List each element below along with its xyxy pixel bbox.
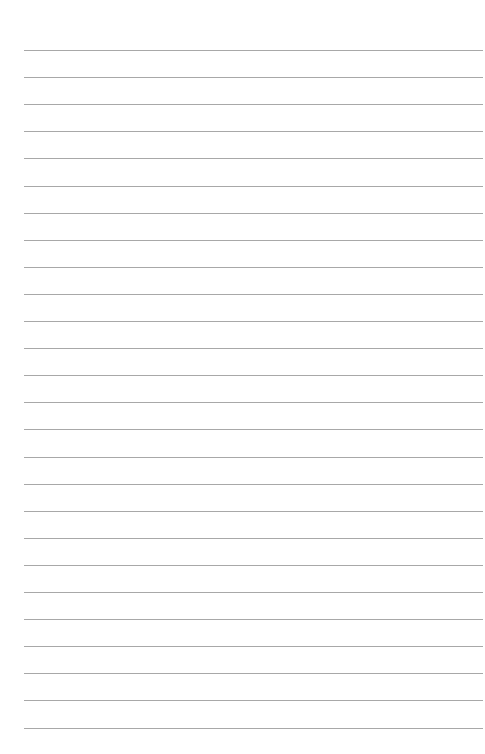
ruled-line: [24, 77, 483, 78]
ruled-line: [24, 646, 483, 647]
ruled-line: [24, 294, 483, 295]
ruled-line: [24, 592, 483, 593]
ruled-line: [24, 700, 483, 701]
ruled-line: [24, 104, 483, 105]
ruled-line: [24, 321, 483, 322]
lined-paper-page: [0, 0, 485, 754]
ruled-line: [24, 402, 483, 403]
ruled-line: [24, 511, 483, 512]
ruled-line: [24, 484, 483, 485]
ruled-line: [24, 240, 483, 241]
ruled-line: [24, 565, 483, 566]
ruled-line: [24, 375, 483, 376]
ruled-line: [24, 158, 483, 159]
ruled-line: [24, 50, 483, 51]
ruled-line: [24, 348, 483, 349]
ruled-line: [24, 186, 483, 187]
ruled-line: [24, 267, 483, 268]
ruled-line: [24, 619, 483, 620]
ruled-line: [24, 673, 483, 674]
ruled-line: [24, 538, 483, 539]
ruled-line: [24, 728, 483, 729]
ruled-line: [24, 213, 483, 214]
ruled-line: [24, 131, 483, 132]
ruled-line: [24, 429, 483, 430]
ruled-line: [24, 457, 483, 458]
